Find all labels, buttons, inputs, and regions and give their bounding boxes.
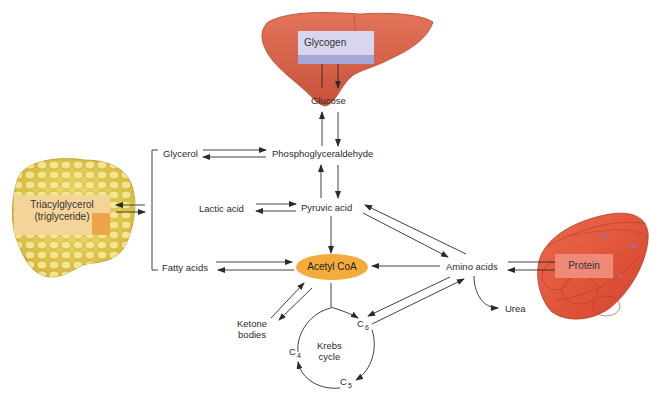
- acetyl-coa-label: Acetyl CoA: [296, 261, 368, 272]
- krebs-cycle-label: Krebs cycle: [317, 340, 342, 362]
- ketone-bodies-line1: Ketone: [237, 318, 267, 329]
- amino-acids-label: Amino acids: [446, 261, 498, 272]
- c5-subscript: 5: [348, 382, 352, 389]
- triacylglycerol-label-line2: (triglyceride): [14, 211, 110, 223]
- ketone-bodies-label: Ketone bodies: [237, 318, 267, 340]
- protein-box: Protein: [555, 254, 613, 278]
- protein-label: Protein: [555, 260, 613, 271]
- c6-subscript: 6: [365, 324, 369, 331]
- ketone-bodies-line2: bodies: [237, 329, 267, 340]
- c4-subscript: 4: [297, 352, 301, 359]
- urea-label: Urea: [505, 303, 526, 314]
- krebs-cycle-line1: Krebs: [317, 340, 342, 351]
- c5-letter: C: [340, 376, 347, 387]
- c4-letter: C: [289, 346, 296, 357]
- glucose-label: Glucose: [311, 95, 346, 106]
- acetyl-coa-node: Acetyl CoA: [296, 254, 368, 280]
- c6-letter: C: [357, 318, 364, 329]
- glycogen-box: Glycogen: [298, 31, 374, 64]
- pathway-arrows: [116, 57, 562, 388]
- triacylglycerol-box: Triacylglycerol (triglyceride): [14, 195, 110, 235]
- triacylglycerol-label-line1: Triacylglycerol: [14, 199, 110, 211]
- lactic-acid-label: Lactic acid: [199, 203, 244, 214]
- c4-label: C4: [289, 346, 301, 358]
- c6-label: C6: [357, 318, 369, 330]
- glycerol-label: Glycerol: [163, 148, 198, 159]
- pyruvic-acid-label: Pyruvic acid: [301, 202, 352, 213]
- triacylglycerol-label: Triacylglycerol (triglyceride): [14, 199, 110, 223]
- glycogen-box-band: [298, 55, 374, 64]
- fatty-acids-label: Fatty acids: [162, 262, 208, 273]
- krebs-cycle-line2: cycle: [317, 351, 342, 362]
- glycogen-label: Glycogen: [304, 37, 346, 48]
- phosphoglyceraldehyde-label: Phosphoglyceraldehyde: [272, 148, 373, 159]
- c5-label: C5: [340, 376, 352, 388]
